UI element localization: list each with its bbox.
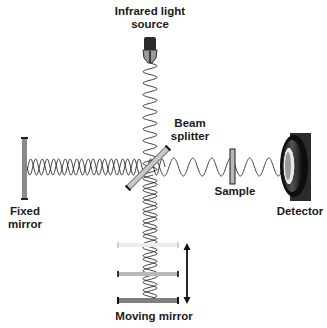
beam-splitter-label-line1: Beam bbox=[165, 117, 215, 130]
infrared-source-icon bbox=[143, 37, 157, 63]
movement-arrow-icon bbox=[184, 243, 191, 304]
sample-label-text: Sample bbox=[212, 185, 258, 198]
source-label-line1: Infrared light bbox=[104, 5, 196, 18]
detector-label-text: Detector bbox=[273, 205, 327, 218]
moving-mirror-label: Moving mirror bbox=[106, 310, 202, 323]
fixed-mirror-icon bbox=[21, 137, 28, 200]
moving-mirror-label-text: Moving mirror bbox=[106, 310, 202, 323]
source-label: Infrared light source bbox=[104, 5, 196, 31]
sample-icon bbox=[230, 149, 235, 184]
beam-splitter-icon bbox=[126, 146, 171, 191]
fixed-mirror-label-line1: Fixed bbox=[5, 205, 45, 218]
beam-splitter-label: Beam splitter bbox=[165, 117, 215, 143]
source-label-line2: source bbox=[104, 18, 196, 31]
detector-icon bbox=[280, 133, 311, 201]
moving-mirror-icon bbox=[117, 242, 179, 304]
sample-label: Sample bbox=[212, 185, 258, 198]
interferometer-diagram bbox=[0, 0, 327, 328]
detector-label: Detector bbox=[273, 205, 327, 218]
fixed-mirror-label: Fixed mirror bbox=[5, 205, 45, 231]
fixed-mirror-label-line2: mirror bbox=[5, 218, 45, 231]
beam-splitter-label-line2: splitter bbox=[165, 130, 215, 143]
vertical-beam-wave bbox=[143, 63, 157, 300]
